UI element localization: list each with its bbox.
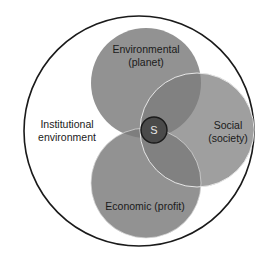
social-label-line2: (society) — [208, 132, 248, 144]
social-label-line1: Social — [214, 119, 243, 131]
economic-label: Economic (profit) — [105, 200, 184, 212]
environmental-label-line2: (planet) — [128, 56, 164, 68]
sustainability-venn-diagram: Environmental (planet) Social (society) … — [0, 0, 274, 260]
sustainability-center-label: S — [150, 124, 157, 136]
environmental-label-line1: Environmental — [112, 43, 179, 55]
institutional-label-line1: Institutional — [40, 118, 93, 130]
institutional-label-line2: environment — [38, 131, 96, 143]
